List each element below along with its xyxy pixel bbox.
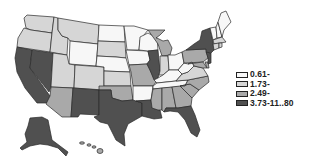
legend-label: 3.73-11..80: [250, 99, 294, 108]
state-ak: [20, 117, 68, 156]
state-ri: [219, 43, 222, 48]
legend-item: 3.73-11..80: [236, 99, 294, 108]
state-ks: [104, 71, 131, 86]
legend-label: 0.61-: [250, 70, 270, 79]
legend-swatch: [236, 81, 248, 87]
state-ar: [133, 86, 153, 101]
legend-item: 2.49-: [236, 89, 294, 98]
state-sd: [97, 41, 126, 58]
state-az: [46, 87, 73, 117]
state-ia: [126, 50, 150, 65]
legend-label: 2.49-: [250, 89, 270, 98]
legend-swatch: [236, 100, 248, 106]
legend-swatch: [236, 91, 248, 97]
state-ny: [186, 28, 214, 53]
state-nm: [71, 88, 99, 117]
state-pa: [182, 49, 208, 63]
map-legend: 0.61- 1.73- 2.49- 3.73-11..80: [236, 70, 294, 108]
state-ct: [213, 43, 219, 50]
state-fl: [164, 106, 200, 137]
state-nd: [98, 25, 125, 42]
legend-swatch: [236, 72, 248, 78]
legend-item: 0.61-: [236, 70, 294, 79]
state-hi: [80, 142, 104, 154]
state-wy: [69, 41, 98, 66]
state-ms: [151, 88, 162, 110]
